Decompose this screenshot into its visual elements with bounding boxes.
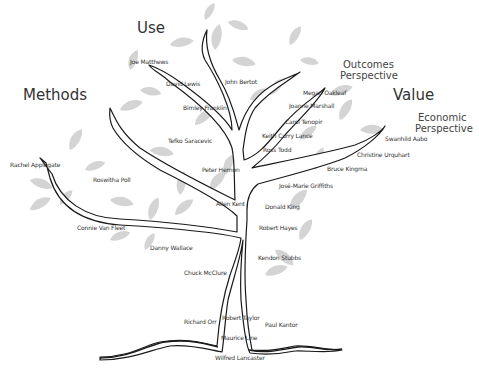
economic-line2: Perspective: [415, 123, 473, 134]
theorist-label: Kendon Stubbs: [258, 254, 301, 261]
outcomes-line1: Outcomes: [340, 59, 398, 70]
theorist-label: Richard Orr: [184, 318, 217, 325]
category-value: Value: [393, 86, 434, 104]
theorist-label: Rachel Applegate: [10, 161, 60, 168]
theorist-label: Swanhild Aabo: [385, 135, 427, 142]
trunk-and-branches: [40, 30, 385, 360]
theorist-label: Robert Hayes: [259, 224, 298, 231]
theorist-label: Bruce Kingma: [327, 165, 367, 172]
theorist-label: Paul Kantor: [265, 321, 298, 328]
theorist-label: Peter Hernon: [202, 166, 240, 173]
category-economic-perspective: Economic Perspective: [415, 112, 473, 134]
theorist-label: Joanne Marshall: [289, 102, 334, 109]
theorist-label: Maurice Line: [221, 334, 257, 341]
theorist-label: John Bertot: [225, 78, 257, 85]
theorist-label: Chuck McClure: [184, 269, 227, 276]
theorist-label: Ross Todd: [263, 146, 291, 153]
theorist-label: Keith Curry Lance: [262, 132, 313, 139]
theorist-label: José-Marie Griffiths: [279, 182, 333, 189]
theorist-label: Roswitha Poll: [93, 176, 130, 183]
theorist-label: Joe Matthews: [130, 58, 168, 65]
theorist-label: David Lewis: [166, 80, 200, 87]
theorist-label: Megan Oakleaf: [303, 89, 346, 96]
theorist-label: Connie Van Fleet: [77, 224, 125, 231]
theorist-label: Bimley Franklin: [183, 104, 227, 111]
category-use: Use: [137, 19, 165, 37]
theorist-label: Carol Tenopir: [285, 118, 322, 125]
theorist-label: Robert Taylor: [222, 314, 260, 321]
category-methods: Methods: [23, 86, 87, 104]
branches: [40, 30, 385, 360]
theorist-label: Christine Urquhart: [357, 151, 410, 158]
theorist-label: Donald King: [265, 203, 300, 210]
theorist-label: Tefko Saracevic: [168, 137, 212, 144]
theorist-label: Danny Wallace: [150, 244, 193, 251]
outcomes-line2: Perspective: [340, 70, 398, 81]
theorist-label: Allen Kent: [216, 200, 245, 207]
theorist-label: Wilfred Lancaster: [215, 354, 265, 361]
economic-line1: Economic: [415, 112, 473, 123]
category-outcomes-perspective: Outcomes Perspective: [340, 59, 398, 81]
